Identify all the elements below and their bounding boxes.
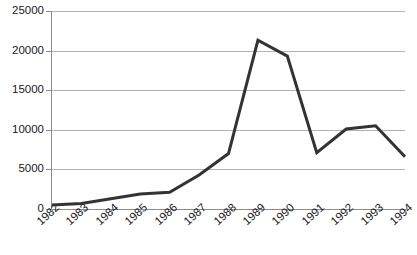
line-chart: 0500010000150002000025000 19821983198419… xyxy=(0,0,417,255)
data-series-layer xyxy=(0,0,417,255)
data-line-series-1 xyxy=(52,40,405,205)
